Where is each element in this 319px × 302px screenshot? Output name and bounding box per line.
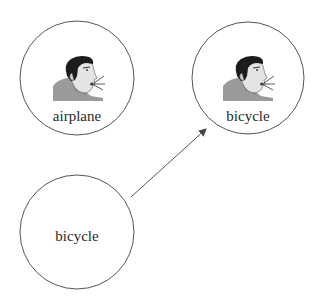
- node-label: bicycle: [226, 108, 270, 124]
- node-label: bicycle: [55, 228, 99, 244]
- speaking-face-icon: [53, 56, 105, 101]
- speaking-face-icon: [223, 56, 275, 101]
- node-bicycle-speaker: bicycle: [192, 22, 304, 134]
- node-airplane-speaker: airplane: [20, 21, 134, 135]
- node-bicycle-plain: bicycle: [20, 175, 134, 289]
- arrow-edge: [131, 129, 206, 197]
- node-label: airplane: [53, 108, 102, 124]
- diagram-canvas: airplane bicycle bicycle: [0, 0, 319, 302]
